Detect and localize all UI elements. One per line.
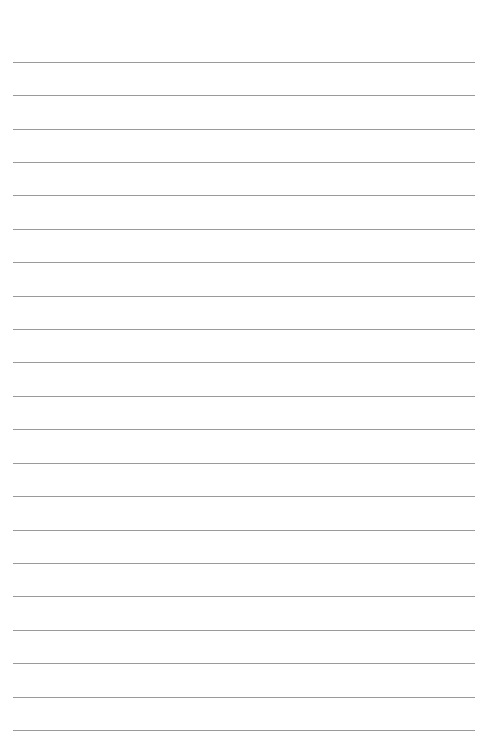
ruled-line [13, 229, 475, 230]
ruled-line [13, 362, 475, 363]
ruled-line [13, 697, 475, 698]
ruled-line [13, 663, 475, 664]
ruled-line [13, 195, 475, 196]
ruled-line [13, 262, 475, 263]
ruled-line [13, 463, 475, 464]
ruled-line [13, 429, 475, 430]
ruled-line [13, 162, 475, 163]
ruled-line [13, 563, 475, 564]
ruled-line [13, 596, 475, 597]
ruled-line [13, 630, 475, 631]
ruled-line [13, 329, 475, 330]
ruled-line [13, 496, 475, 497]
ruled-line [13, 95, 475, 96]
ruled-line [13, 730, 475, 731]
lined-page [0, 0, 489, 751]
ruled-line [13, 530, 475, 531]
ruled-line [13, 396, 475, 397]
ruled-line [13, 62, 475, 63]
ruled-line [13, 129, 475, 130]
ruled-line [13, 296, 475, 297]
